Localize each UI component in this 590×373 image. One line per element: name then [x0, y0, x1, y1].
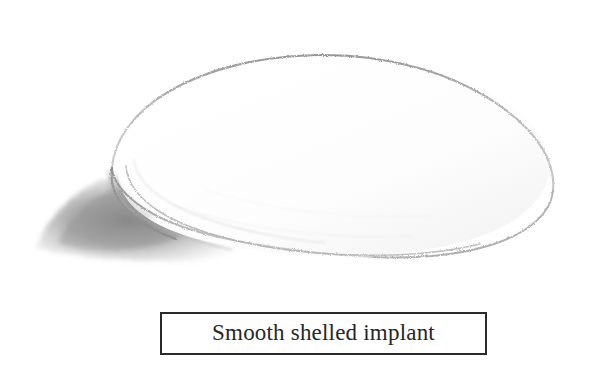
caption-box: Smooth shelled implant — [160, 312, 487, 355]
implant-drawing-canvas — [0, 0, 590, 300]
figure-root: Smooth shelled implant — [0, 0, 590, 373]
implant-body — [118, 55, 550, 256]
implant-drawing — [0, 0, 590, 300]
caption-text: Smooth shelled implant — [212, 321, 435, 346]
